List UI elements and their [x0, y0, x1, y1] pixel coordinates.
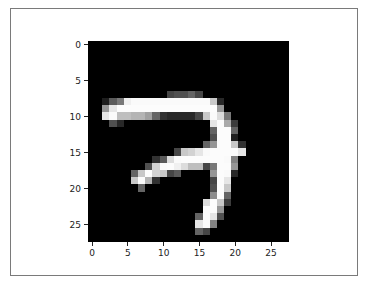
pixel-cell	[138, 41, 145, 48]
pixel-cell	[231, 62, 238, 69]
pixel-cell	[210, 148, 217, 155]
pixel-cell	[160, 55, 167, 62]
pixel-cell	[88, 55, 95, 62]
pixel-cell	[109, 76, 116, 83]
pixel-grid	[88, 41, 289, 243]
pixel-cell	[131, 120, 138, 127]
pixel-cell	[274, 235, 281, 242]
pixel-cell	[267, 177, 274, 184]
pixel-cell	[152, 192, 159, 199]
pixel-cell	[152, 156, 159, 163]
pixel-cell	[224, 213, 231, 220]
pixel-cell	[174, 192, 181, 199]
pixel-cell	[102, 105, 109, 112]
pixel-cell	[102, 134, 109, 141]
pixel-cell	[195, 213, 202, 220]
pixel-cell	[267, 134, 274, 141]
pixel-cell	[131, 148, 138, 155]
pixel-cell	[145, 62, 152, 69]
pixel-cell	[210, 98, 217, 105]
pixel-cell	[203, 105, 210, 112]
image-plot	[88, 41, 289, 243]
pixel-cell	[267, 41, 274, 48]
pixel-cell	[188, 156, 195, 163]
pixel-cell	[174, 184, 181, 191]
pixel-cell	[274, 55, 281, 62]
pixel-cell	[246, 69, 253, 76]
pixel-cell	[217, 76, 224, 83]
pixel-cell	[109, 55, 116, 62]
pixel-cell	[195, 120, 202, 127]
pixel-cell	[260, 177, 267, 184]
pixel-cell	[88, 41, 95, 48]
pixel-cell	[195, 105, 202, 112]
pixel-cell	[210, 120, 217, 127]
pixel-cell	[210, 141, 217, 148]
pixel-cell	[160, 127, 167, 134]
pixel-cell	[274, 48, 281, 55]
pixel-cell	[167, 120, 174, 127]
pixel-cell	[95, 134, 102, 141]
y-tick-mark	[84, 152, 88, 153]
pixel-cell	[253, 220, 260, 227]
pixel-cell	[224, 55, 231, 62]
pixel-cell	[246, 220, 253, 227]
pixel-cell	[181, 213, 188, 220]
pixel-cell	[274, 213, 281, 220]
pixel-cell	[102, 192, 109, 199]
pixel-cell	[246, 184, 253, 191]
pixel-cell	[124, 84, 131, 91]
pixel-cell	[102, 220, 109, 227]
pixel-cell	[160, 184, 167, 191]
pixel-cell	[217, 220, 224, 227]
pixel-cell	[281, 213, 288, 220]
pixel-cell	[281, 220, 288, 227]
pixel-cell	[246, 48, 253, 55]
pixel-cell	[224, 62, 231, 69]
pixel-cell	[181, 84, 188, 91]
pixel-cell	[188, 148, 195, 155]
pixel-cell	[267, 55, 274, 62]
pixel-cell	[210, 170, 217, 177]
pixel-cell	[238, 105, 245, 112]
pixel-cell	[217, 163, 224, 170]
pixel-cell	[224, 156, 231, 163]
pixel-cell	[188, 163, 195, 170]
pixel-cell	[145, 141, 152, 148]
pixel-cell	[224, 98, 231, 105]
pixel-cell	[109, 156, 116, 163]
pixel-cell	[267, 141, 274, 148]
pixel-cell	[195, 184, 202, 191]
pixel-cell	[224, 134, 231, 141]
pixel-cell	[238, 48, 245, 55]
pixel-cell	[217, 112, 224, 119]
pixel-cell	[274, 98, 281, 105]
pixel-cell	[160, 213, 167, 220]
pixel-cell	[274, 148, 281, 155]
pixel-cell	[217, 127, 224, 134]
pixel-cell	[95, 184, 102, 191]
pixel-cell	[160, 148, 167, 155]
pixel-cell	[203, 62, 210, 69]
pixel-cell	[188, 105, 195, 112]
pixel-cell	[274, 141, 281, 148]
pixel-cell	[124, 55, 131, 62]
pixel-cell	[174, 84, 181, 91]
pixel-cell	[138, 48, 145, 55]
pixel-cell	[174, 170, 181, 177]
pixel-cell	[238, 177, 245, 184]
pixel-cell	[138, 69, 145, 76]
pixel-cell	[231, 213, 238, 220]
pixel-cell	[260, 184, 267, 191]
pixel-cell	[281, 55, 288, 62]
pixel-cell	[224, 112, 231, 119]
pixel-cell	[217, 41, 224, 48]
pixel-cell	[88, 120, 95, 127]
pixel-cell	[145, 213, 152, 220]
pixel-cell	[152, 69, 159, 76]
pixel-cell	[253, 76, 260, 83]
pixel-cell	[88, 199, 95, 206]
pixel-cell	[160, 141, 167, 148]
pixel-cell	[210, 184, 217, 191]
pixel-cell	[167, 170, 174, 177]
